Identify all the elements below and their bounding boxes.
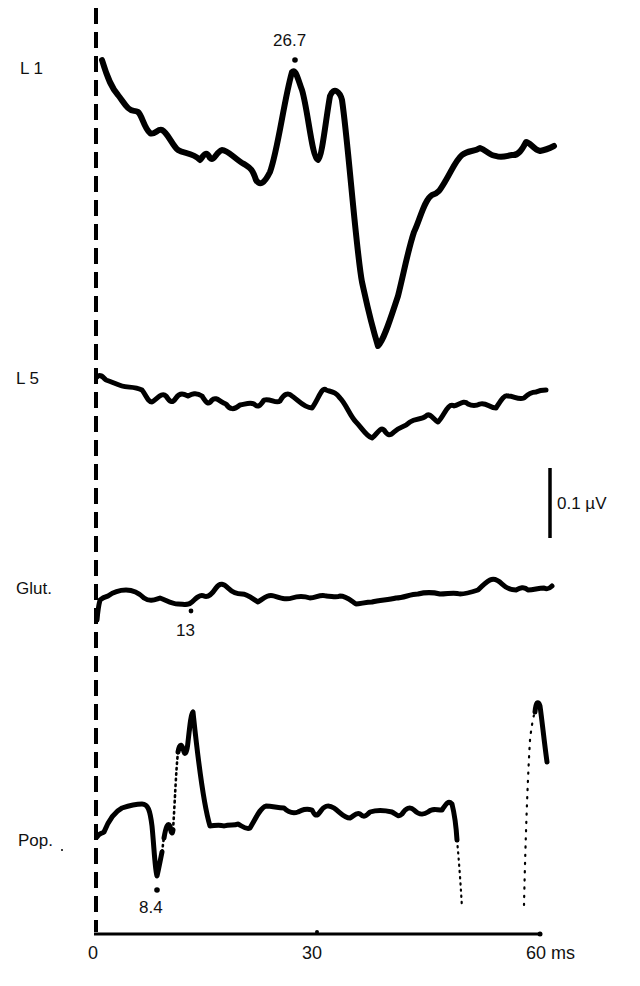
trace-l5 bbox=[97, 376, 546, 438]
trace-pop-segment-3 bbox=[178, 712, 457, 840]
x-tick-label-30: 30 bbox=[302, 943, 322, 964]
trace-label-glut: Glut. bbox=[16, 579, 52, 599]
trace-pop-dotted-5 bbox=[524, 712, 535, 905]
trace-pop-dotted-4 bbox=[457, 840, 462, 908]
trace-l1 bbox=[102, 60, 554, 346]
trace-pop-segment-4 bbox=[535, 703, 547, 762]
evoked-potential-figure bbox=[0, 0, 640, 986]
trace-pop-dotted-2 bbox=[173, 752, 178, 830]
annotation-l1-peak: 26.7 bbox=[273, 31, 306, 51]
x-tick-label-60: 60 ms bbox=[526, 943, 575, 964]
stray-dot bbox=[61, 849, 63, 851]
trough-marker-glut bbox=[189, 609, 194, 614]
trace-pop-segment-1 bbox=[97, 804, 162, 876]
x-tick-30 bbox=[315, 930, 319, 934]
trough-marker-pop bbox=[154, 887, 160, 893]
x-tick-label-0: 0 bbox=[88, 943, 98, 964]
x-tick-60 bbox=[538, 932, 543, 937]
trace-pop-dotted-1 bbox=[162, 838, 164, 852]
trace-pop-segment-2 bbox=[164, 825, 173, 839]
annotation-pop-trough: 8.4 bbox=[139, 898, 163, 918]
trace-label-pop: Pop. bbox=[18, 831, 53, 851]
trace-glut bbox=[97, 579, 552, 620]
scale-bar-label: 0.1 µV bbox=[557, 494, 607, 514]
annotation-glut-trough: 13 bbox=[176, 621, 195, 641]
peak-marker-l1 bbox=[292, 57, 298, 63]
trace-label-l1: L 1 bbox=[20, 59, 43, 79]
trace-label-l5: L 5 bbox=[16, 369, 39, 389]
